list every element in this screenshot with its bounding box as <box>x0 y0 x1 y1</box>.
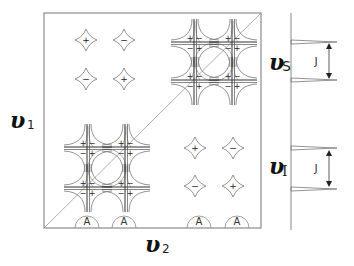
sign-label: − <box>229 143 237 153</box>
x-axis-label: υ 2 <box>145 231 170 257</box>
sign-label: + <box>127 149 134 158</box>
sign-label: + <box>229 181 237 191</box>
baseline-label: A <box>196 216 203 227</box>
sign-label: − <box>118 189 125 198</box>
sign-label: + <box>225 72 232 81</box>
sign-label: + <box>187 72 194 81</box>
sign-label: + <box>89 189 96 198</box>
svg-text:1: 1 <box>27 118 35 132</box>
sign-label: + <box>118 139 125 148</box>
sign-label: − <box>89 139 96 148</box>
sign-label: − <box>127 139 134 148</box>
baseline-label: A <box>121 216 128 227</box>
diagonal-multiplet-top-right: + − − + + − − + + − − + + − − + <box>171 19 257 105</box>
sign-label: − <box>225 82 232 91</box>
projection-spectrum: J J <box>291 13 337 230</box>
sign-label: + <box>196 82 203 91</box>
sign-label: − <box>118 149 125 158</box>
cosy-diagram: + − − + + − − + + − − + + − − + + − <box>0 0 354 266</box>
sign-label: + <box>127 189 134 198</box>
y-axis-label: υ 1 <box>10 107 35 133</box>
cross-peaks-bottom-right: + − − + <box>184 137 244 197</box>
svg-text:S: S <box>282 58 291 74</box>
sign-label: + <box>234 44 241 53</box>
sign-label: + <box>120 74 128 84</box>
sign-label: − <box>191 181 199 191</box>
svg-text:υ: υ <box>10 107 25 133</box>
sign-label: − <box>187 82 194 91</box>
sign-label: − <box>234 72 241 81</box>
sign-label: − <box>127 179 134 188</box>
sign-label: − <box>80 149 87 158</box>
sign-label: − <box>120 35 128 45</box>
sign-label: + <box>196 44 203 53</box>
sign-label: + <box>191 143 199 153</box>
baseline-label: A <box>84 216 91 227</box>
sign-label: + <box>225 34 232 43</box>
sign-label: − <box>80 189 87 198</box>
svg-text:υ: υ <box>145 231 160 257</box>
spectrum-label-i: υ I <box>269 153 288 179</box>
sign-label: − <box>234 34 241 43</box>
baseline-label: A <box>234 216 241 227</box>
coupling-label: J <box>313 162 317 175</box>
sign-label: − <box>89 179 96 188</box>
sign-label: + <box>187 34 194 43</box>
sign-label: + <box>82 35 90 45</box>
sign-label: − <box>187 44 194 53</box>
sign-label: + <box>80 139 87 148</box>
sign-label: + <box>80 179 87 188</box>
sign-label: − <box>196 34 203 43</box>
baseline-peaks: A A A A <box>75 216 249 228</box>
sign-label: − <box>196 72 203 81</box>
sign-label: + <box>89 149 96 158</box>
sign-label: + <box>118 179 125 188</box>
sign-label: − <box>225 44 232 53</box>
cross-peaks-top-left: + − − + <box>75 29 135 90</box>
svg-text:I: I <box>282 163 288 179</box>
sign-label: − <box>82 74 90 84</box>
spectrum-label-s: υ S <box>269 49 291 75</box>
coupling-label: J <box>313 55 317 68</box>
sign-label: + <box>234 82 241 91</box>
diagonal-multiplet-bottom-left: + − − + + − − + + − − + + − − + <box>64 124 150 212</box>
svg-text:2: 2 <box>162 242 170 256</box>
